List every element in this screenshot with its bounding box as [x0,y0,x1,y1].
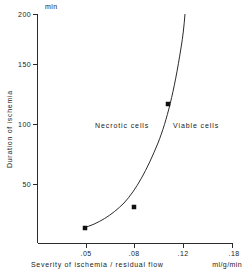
x-tick-label: .18 [229,250,240,257]
data-point-marker [166,102,170,106]
x-tick-label: .08 [129,250,140,257]
threshold-curve [83,14,185,228]
y-tick-label: 100 [18,121,31,128]
y-tick-label: 200 [18,11,31,18]
data-point-marker [132,205,136,209]
x-axis-unit-label: ml/g/min [212,261,242,269]
ischemia-threshold-chart: min 200 150 100 50 Duration of ischemia … [0,0,247,271]
x-axis-ticks [87,244,233,249]
y-tick-label: 50 [22,181,31,188]
y-axis-ticks [33,15,38,185]
x-tick-label: .05 [81,250,92,257]
region-label-viable: Viable cells [173,122,219,129]
data-point-marker [83,226,87,230]
region-label-necrotic: Necrotic cells [95,122,149,129]
x-tick-label: .12 [178,250,189,257]
chart-figure: min 200 150 100 50 Duration of ischemia … [0,0,247,271]
y-tick-label: 150 [18,61,31,68]
y-axis-title: Duration of ischemia [6,90,13,168]
y-axis-unit-label: min [45,3,57,10]
x-axis-title: Severity of ischemia / residual flow [31,261,164,269]
